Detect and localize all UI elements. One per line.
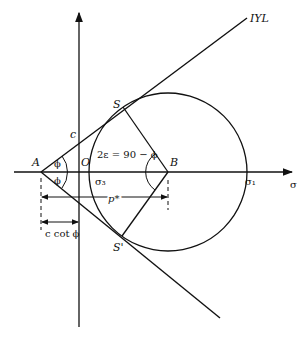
label-S-prime: S' [113,241,124,254]
label-phi-lower: ϕ [54,175,61,186]
radius-BS [123,107,168,172]
label-sigma3: σ₃ [95,176,106,187]
label-angle-eq: 2ε = 90 − ϕ [97,149,158,160]
label-A: A [31,156,40,169]
label-sigma-axis: σ [290,179,297,190]
label-B: B [169,156,178,169]
label-p-star: p* [108,193,119,204]
label-c-cot-phi: c cot ϕ [45,228,80,239]
yield-locus-lower [41,172,220,318]
label-iyl: IYL [249,12,269,25]
label-c: c [70,128,76,141]
label-sigma1: σ₁ [245,176,256,187]
mohr-circle-diagram: IYL S S' A O B c ϕ ϕ 2ε = 90 − ϕ σ₃ σ₁ σ… [0,0,307,341]
label-phi-upper: ϕ [54,158,61,169]
radius-BS-prime [122,172,168,236]
label-S: S [113,98,121,111]
label-O: O [81,156,90,169]
